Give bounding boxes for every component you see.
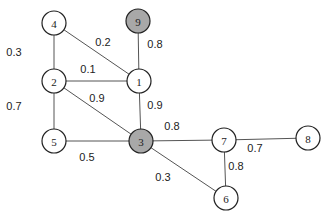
node-label: 3 xyxy=(138,136,144,148)
edge-weight-label: 0.9 xyxy=(89,92,104,104)
node-label: 1 xyxy=(136,76,142,88)
edge-weight-label: 0.3 xyxy=(155,171,170,183)
edges xyxy=(54,21,308,198)
edge-2-3 xyxy=(54,81,141,141)
node-1: 1 xyxy=(127,69,151,93)
edge-weight-label: 0.8 xyxy=(147,38,162,50)
node-label: 2 xyxy=(51,76,57,88)
node-6: 6 xyxy=(214,186,238,210)
edge-4-1 xyxy=(54,23,139,81)
edge-3-6 xyxy=(141,141,226,198)
edge-weight-label: 0.8 xyxy=(164,120,179,132)
node-label: 9 xyxy=(135,16,141,28)
edge-7-8 xyxy=(224,138,308,140)
nodes: 492153786 xyxy=(42,9,320,210)
node-4: 4 xyxy=(42,11,66,35)
edge-weights: 0.30.20.80.10.90.90.70.50.80.30.70.8 xyxy=(6,36,262,183)
edge-weight-label: 0.5 xyxy=(79,151,94,163)
edge-weight-label: 0.2 xyxy=(95,36,110,48)
edge-weight-label: 0.9 xyxy=(147,99,162,111)
edge-weight-label: 0.3 xyxy=(6,46,21,58)
node-label: 5 xyxy=(51,136,57,148)
node-label: 6 xyxy=(223,193,229,205)
node-7: 7 xyxy=(212,128,236,152)
node-label: 7 xyxy=(221,135,227,147)
node-9: 9 xyxy=(126,9,150,33)
edge-weight-label: 0.8 xyxy=(228,160,243,172)
node-2: 2 xyxy=(42,69,66,93)
edge-weight-label: 0.1 xyxy=(80,63,95,75)
node-8: 8 xyxy=(296,126,320,150)
graph-diagram: 0.30.20.80.10.90.90.70.50.80.30.70.8 492… xyxy=(0,0,328,217)
node-5: 5 xyxy=(42,129,66,153)
node-label: 8 xyxy=(305,133,311,145)
node-label: 4 xyxy=(51,18,57,30)
edge-weight-label: 0.7 xyxy=(6,100,21,112)
edge-weight-label: 0.7 xyxy=(247,142,262,154)
node-3: 3 xyxy=(129,129,153,153)
